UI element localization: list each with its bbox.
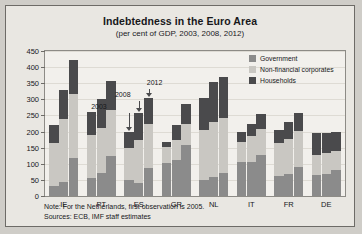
bar-gr-2008[interactable] (172, 125, 181, 196)
bar-gr-2012[interactable] (181, 104, 190, 196)
bar-de-2008[interactable] (322, 133, 331, 196)
x-axis-label-fr: FR (284, 200, 294, 209)
chart-legend: GovernmentNon-financial corporatesHouseh… (249, 53, 353, 86)
bar-it-2003[interactable] (237, 132, 246, 196)
bar-group (49, 51, 78, 196)
bar-ie-2003[interactable] (49, 125, 58, 196)
legend-item-gov[interactable]: Government (249, 53, 353, 64)
bar-segment-gov (237, 162, 246, 196)
y-axis-label: 0 (35, 192, 39, 201)
bar-ie-2012[interactable] (69, 60, 78, 196)
bar-pt-2008[interactable] (97, 99, 106, 196)
y-axis-label: 150 (26, 143, 39, 152)
bar-segment-hh (331, 132, 340, 151)
bar-segment-nfc (199, 130, 208, 180)
y-axis-tick (41, 164, 45, 165)
bar-gr-2003[interactable] (162, 142, 171, 196)
annotation-arrow-head (136, 108, 142, 112)
chart-title: Indebtedness in the Euro Area (6, 15, 354, 27)
bar-it-2012[interactable] (256, 114, 265, 196)
bar-segment-gov (106, 156, 115, 196)
bar-nl-2012[interactable] (219, 77, 228, 196)
bar-segment-gov (219, 173, 228, 196)
x-axis-label-de: DE (321, 200, 331, 209)
annotation-arrow-line (139, 101, 140, 108)
bar-de-2003[interactable] (312, 133, 321, 196)
y-axis-tick (41, 148, 45, 149)
bar-segment-nfc (209, 122, 218, 177)
bar-segment-gov (312, 175, 321, 196)
bar-segment-gov (97, 173, 106, 196)
bar-segment-hh (69, 60, 78, 94)
bar-segment-hh (312, 133, 321, 155)
chart-panel: Indebtedness in the Euro Area (per cent … (5, 5, 355, 227)
bar-segment-hh (124, 132, 133, 148)
y-axis-tick (41, 115, 45, 116)
bar-segment-nfc (294, 131, 303, 167)
bar-segment-hh (247, 124, 256, 137)
bar-segment-nfc (162, 147, 171, 163)
bar-segment-hh (322, 133, 331, 153)
bar-segment-nfc (284, 139, 293, 174)
bar-segment-nfc (124, 148, 133, 180)
y-axis-tick (41, 132, 45, 133)
bar-segment-hh (59, 90, 68, 120)
bar-group (162, 51, 191, 196)
bar-segment-nfc (144, 124, 153, 168)
annotation-arrow-head (126, 127, 132, 131)
bar-segment-gov (294, 167, 303, 196)
bar-segment-gov (199, 180, 208, 196)
bar-segment-hh (181, 104, 190, 124)
bar-segment-hh (274, 130, 283, 144)
x-axis-label-nl: NL (209, 200, 219, 209)
bar-pt-2003[interactable] (87, 112, 96, 196)
y-axis-tick (41, 67, 45, 68)
bar-segment-nfc (256, 129, 265, 155)
bar-group (87, 51, 116, 196)
bar-segment-gov (162, 163, 171, 196)
annotation-2003: 2003 (91, 103, 107, 110)
bar-segment-gov (59, 182, 68, 196)
chart-sources: Sources: ECB, IMF staff estimates (44, 212, 204, 222)
bar-segment-nfc (172, 140, 181, 160)
bar-nl-2008[interactable] (209, 82, 218, 196)
y-axis-label: 300 (26, 95, 39, 104)
bar-segment-hh (199, 98, 208, 130)
y-axis-tick (41, 196, 45, 197)
bar-fr-2008[interactable] (284, 122, 293, 196)
annotation-arrow-line (129, 113, 130, 127)
y-axis-tick (41, 99, 45, 100)
y-axis-label: 250 (26, 111, 39, 120)
bar-segment-hh (162, 142, 171, 148)
bar-es-2012[interactable] (144, 98, 153, 196)
bar-segment-hh (284, 122, 293, 139)
legend-item-hh[interactable]: Households (249, 75, 353, 86)
bar-ie-2008[interactable] (59, 90, 68, 196)
bar-nl-2003[interactable] (199, 98, 208, 196)
bar-it-2008[interactable] (247, 124, 256, 197)
bar-segment-hh (256, 114, 265, 128)
legend-item-nfc[interactable]: Non-financial corporates (249, 64, 353, 75)
y-axis-label: 450 (26, 47, 39, 56)
legend-swatch-hh (249, 77, 256, 84)
bar-segment-gov (181, 145, 190, 196)
bar-segment-hh (134, 113, 143, 139)
bar-segment-nfc (59, 119, 68, 182)
bar-segment-nfc (322, 153, 331, 174)
bar-es-2008[interactable] (134, 113, 143, 196)
bar-segment-nfc (331, 151, 340, 170)
chart-notes: Note: For the Netherlands, first observa… (44, 202, 204, 222)
bar-segment-gov (49, 186, 58, 196)
legend-label: Government (260, 55, 297, 62)
annotation-arrow-head (146, 93, 152, 97)
bar-fr-2012[interactable] (294, 113, 303, 196)
bar-fr-2003[interactable] (274, 130, 283, 196)
bar-pt-2012[interactable] (106, 81, 115, 196)
bar-segment-gov (87, 178, 96, 196)
bar-segment-nfc (237, 142, 246, 163)
bar-es-2003[interactable] (124, 132, 133, 196)
bar-segment-nfc (134, 140, 143, 184)
bar-de-2012[interactable] (331, 132, 340, 196)
y-axis-tick (41, 83, 45, 84)
bar-segment-gov (322, 174, 331, 196)
